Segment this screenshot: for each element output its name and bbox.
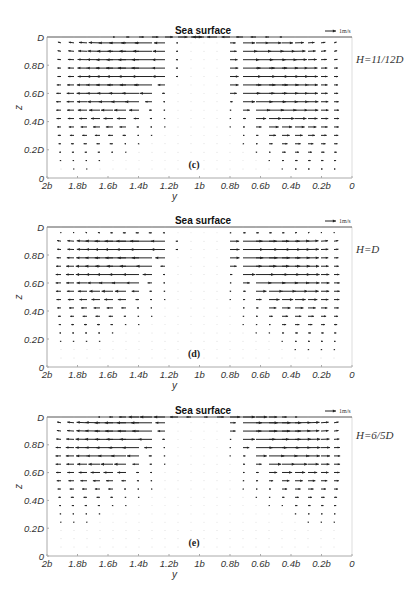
y-tick-label: 0.6D <box>24 467 44 478</box>
scale-arrow-icon <box>325 410 336 413</box>
x-tick-label: 1.2b <box>160 558 179 569</box>
scale-label: 1m/s <box>339 408 351 414</box>
sea-surface-title: Sea surface <box>175 405 232 416</box>
x-tick-label: 1b <box>194 558 205 569</box>
vector-field <box>56 416 341 548</box>
condition-label: H=6/5D <box>355 429 393 441</box>
quiver-panel-e: 2b1.8b1.6b1.4b1.2b1b0.8b0.6b0.4b0.2b000.… <box>0 0 411 600</box>
y-tick-label: 0 <box>39 551 45 562</box>
x-tick-label: 0 <box>349 558 355 569</box>
y-tick-label: D <box>37 412 44 423</box>
x-tick-label: 0.4b <box>282 558 301 569</box>
x-tick-label: 0.8b <box>221 558 240 569</box>
y-axis-label: z <box>13 484 24 490</box>
y-tick-label: 0.2D <box>24 523 44 534</box>
y-tick-label: 0.8D <box>24 439 44 450</box>
x-tick-label: 0.6b <box>251 558 270 569</box>
panel-label: (e) <box>188 537 199 549</box>
y-tick-label: 0.4D <box>24 495 44 506</box>
x-tick-label: 1.4b <box>129 558 148 569</box>
x-tick-label: 1.6b <box>99 558 118 569</box>
x-tick-label: 0.2b <box>312 558 331 569</box>
x-tick-label: 1.8b <box>68 558 87 569</box>
x-axis-label: y <box>171 569 178 580</box>
